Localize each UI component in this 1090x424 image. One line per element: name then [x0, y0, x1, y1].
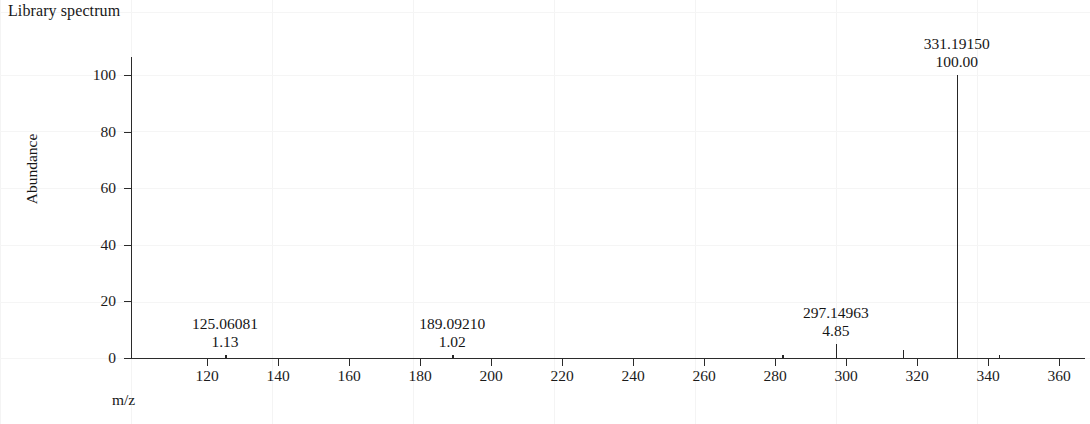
grid-line-horizontal	[0, 12, 1090, 13]
grid-line-vertical	[554, 0, 555, 424]
x-axis-line	[131, 358, 1085, 359]
grid-line-vertical	[695, 0, 696, 424]
x-axis-tick	[349, 358, 350, 366]
x-axis-tick	[704, 358, 705, 366]
peak-abundance-value: 1.02	[367, 333, 537, 351]
x-axis-tick-label: 240	[603, 368, 663, 384]
x-axis-tick	[1059, 358, 1060, 366]
peak-mz-value: 125.06081	[140, 315, 310, 333]
x-axis-tick	[207, 358, 208, 366]
grid-line-horizontal	[0, 188, 1090, 189]
grid-line-vertical	[0, 0, 1, 424]
mass-spectrum-figure: Library spectrum Abundance m/z 020406080…	[0, 0, 1090, 424]
y-axis-tick	[124, 188, 132, 189]
grid-line-horizontal	[0, 75, 1090, 76]
spectrum-peak	[452, 355, 454, 358]
x-axis-tick-label: 320	[887, 368, 947, 384]
x-axis-tick	[988, 358, 989, 366]
grid-line-horizontal	[0, 302, 1090, 303]
x-axis-tick	[917, 358, 918, 366]
peak-abundance-value: 1.13	[140, 333, 310, 351]
x-axis-tick-label: 260	[674, 368, 734, 384]
x-axis-tick-label: 220	[532, 368, 592, 384]
x-axis-tick-label: 300	[816, 368, 876, 384]
x-axis-tick	[846, 358, 847, 366]
y-axis-tick	[124, 75, 132, 76]
spectrum-peak	[782, 355, 784, 358]
y-axis-tick	[124, 132, 132, 133]
y-axis-tick-label: 20	[70, 293, 116, 308]
x-axis-tick-label: 160	[319, 368, 379, 384]
x-axis-tick-label: 280	[745, 368, 805, 384]
peak-abundance-value: 100.00	[872, 53, 1042, 71]
spectrum-peak	[836, 344, 838, 358]
x-axis-tick-label: 120	[177, 368, 237, 384]
x-axis-tick-label: 140	[248, 368, 308, 384]
figure-title: Library spectrum	[8, 1, 120, 21]
spectrum-peak	[225, 355, 227, 358]
y-axis-tick-label: 80	[70, 124, 116, 139]
peak-label: 331.19150100.00	[872, 35, 1042, 71]
peak-mz-value: 331.19150	[872, 35, 1042, 53]
y-axis-tick-label: 100	[70, 67, 116, 82]
grid-line-vertical	[836, 0, 837, 424]
x-axis-tick-label: 340	[958, 368, 1018, 384]
grid-line-horizontal	[0, 131, 1090, 132]
peak-label: 297.149634.85	[751, 304, 921, 340]
spectrum-peak	[957, 75, 959, 358]
x-axis-tick	[420, 358, 421, 366]
y-axis-tick	[124, 358, 132, 359]
x-axis-tick-label: 360	[1029, 368, 1089, 384]
grid-line-horizontal	[0, 245, 1090, 246]
y-axis-tick-label: 0	[70, 350, 116, 365]
y-axis-tick	[124, 301, 132, 302]
x-axis-tick	[562, 358, 563, 366]
y-axis-tick-label: 40	[70, 237, 116, 252]
x-axis-tick-label: 200	[461, 368, 521, 384]
peak-label: 125.060811.13	[140, 315, 310, 351]
x-axis-tick	[775, 358, 776, 366]
x-axis-tick-label: 180	[390, 368, 450, 384]
y-axis-line	[131, 57, 132, 359]
peak-mz-value: 189.09210	[367, 315, 537, 333]
spectrum-peak	[999, 355, 1001, 358]
x-axis-tick	[278, 358, 279, 366]
x-axis-tick	[491, 358, 492, 366]
peak-mz-value: 297.14963	[751, 304, 921, 322]
spectrum-peak	[903, 350, 905, 358]
y-axis-tick-label: 60	[70, 180, 116, 195]
y-axis-tick	[124, 245, 132, 246]
peak-label: 189.092101.02	[367, 315, 537, 351]
grid-line-vertical	[272, 0, 273, 424]
grid-line-vertical	[413, 0, 414, 424]
x-axis-tick	[633, 358, 634, 366]
peak-abundance-value: 4.85	[751, 322, 921, 340]
y-axis-title: Abundance	[23, 109, 41, 229]
x-axis-title: m/z	[112, 392, 135, 408]
